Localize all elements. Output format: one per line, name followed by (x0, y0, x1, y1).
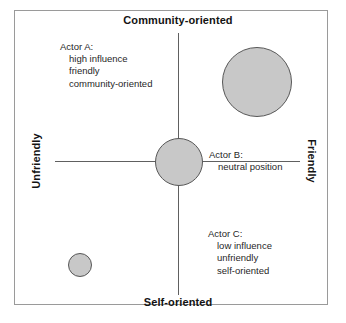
actor-c-annotation: Actor C: low influence unfriendly self-o… (208, 228, 272, 277)
actor-a-annotation: Actor A: high influence friendly communi… (60, 41, 152, 90)
actor-a-bubble (222, 47, 292, 117)
axis-label-self-oriented: Self-oriented (144, 296, 213, 308)
actor-a-title: Actor A: (60, 41, 152, 53)
actor-c-line-3: self-oriented (208, 265, 272, 277)
actor-c-line-1: low influence (208, 240, 272, 252)
actor-a-line-3: community-oriented (60, 78, 152, 90)
axis-label-unfriendly: Unfriendly (30, 133, 42, 188)
actor-c-title: Actor C: (208, 228, 272, 240)
actor-b-bubble (155, 138, 203, 186)
actor-mapping-diagram: Community-oriented Self-oriented Unfrien… (0, 0, 346, 323)
actor-a-line-2: friendly (60, 65, 152, 77)
axis-label-friendly: Friendly (306, 139, 318, 183)
actor-b-annotation: Actor B: neutral position (209, 149, 282, 173)
actor-b-line-1: neutral position (209, 161, 282, 173)
actor-c-line-2: unfriendly (208, 252, 272, 264)
actor-c-bubble (68, 253, 92, 277)
axis-label-community-oriented: Community-oriented (123, 14, 232, 26)
actor-b-title: Actor B: (209, 149, 282, 161)
actor-a-line-1: high influence (60, 53, 152, 65)
